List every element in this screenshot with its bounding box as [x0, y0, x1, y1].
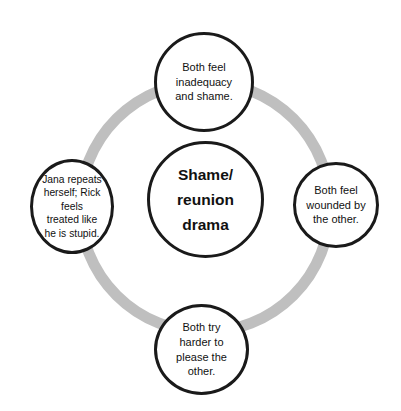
cycle-diagram: Both feel inadequacy and shame. Both fee… — [0, 0, 401, 411]
cycle-node-center: Shame/ reunion drama — [147, 141, 264, 258]
cycle-node-right: Both feel wounded by the other. — [293, 162, 379, 248]
cycle-node-bottom: Both try harder to please the other. — [154, 304, 249, 395]
cycle-node-left: Jana repeats herself; Rick feels treated… — [30, 159, 114, 254]
cycle-node-right-label: Both feel wounded by the other. — [300, 183, 371, 228]
cycle-node-bottom-label: Both try harder to please the other. — [170, 320, 233, 379]
cycle-node-top: Both feel inadequacy and shame. — [154, 32, 254, 132]
cycle-node-center-label: Shame/ reunion drama — [171, 162, 240, 237]
cycle-node-top-label: Both feel inadequacy and shame. — [169, 60, 238, 105]
cycle-node-left-label: Jana repeats herself; Rick feels treated… — [40, 173, 104, 240]
